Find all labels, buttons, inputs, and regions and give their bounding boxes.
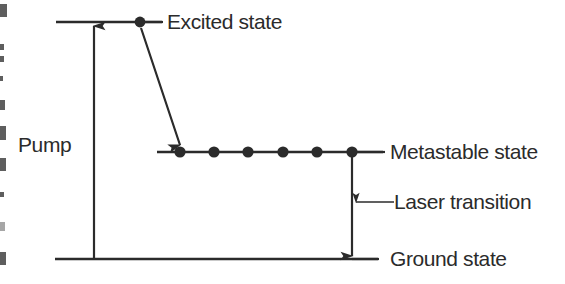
pump-label: Pump	[18, 133, 71, 156]
population-dot	[208, 146, 219, 157]
level-metastable-state	[157, 146, 383, 157]
diagram-canvas: Excited state Metastable state Laser tra…	[0, 0, 565, 284]
population-dot	[311, 146, 322, 157]
ground-state-label: Ground state	[390, 247, 507, 270]
population-dot	[277, 146, 288, 157]
population-dot	[242, 146, 253, 157]
energy-level-diagram: Excited state Metastable state Laser tra…	[0, 0, 565, 284]
laser-transition-label: Laser transition	[394, 190, 531, 213]
excited-state-label: Excited state	[167, 10, 282, 33]
population-dot	[135, 17, 146, 28]
population-dot	[174, 146, 185, 157]
metastable-state-label: Metastable state	[390, 140, 538, 163]
nonradiative-decay-arrow	[141, 28, 180, 145]
